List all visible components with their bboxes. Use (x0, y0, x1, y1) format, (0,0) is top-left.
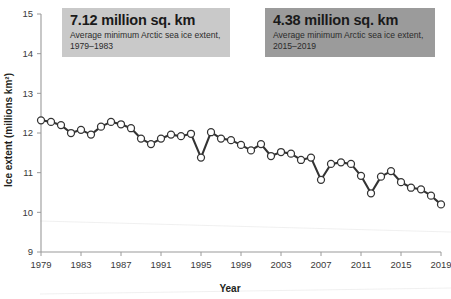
data-point-marker (348, 160, 355, 167)
x-tick-label: 2015 (390, 259, 411, 270)
x-tick-label: 1999 (230, 259, 251, 270)
data-point-marker (208, 129, 215, 136)
data-point-marker (198, 154, 205, 161)
y-tick-label: 14 (22, 48, 33, 59)
data-point-marker (338, 159, 345, 166)
data-point-marker (258, 141, 265, 148)
data-point-marker (428, 192, 435, 199)
data-point-marker (398, 179, 405, 186)
x-tick-label: 2003 (270, 259, 291, 270)
data-point-marker (138, 135, 145, 142)
data-point-marker (248, 147, 255, 154)
data-line (41, 120, 441, 204)
data-point-marker (378, 173, 385, 180)
annotation-callout-second-period: 4.38 million sq. km Average minimum Arct… (265, 8, 435, 57)
data-point-marker (438, 201, 445, 208)
data-point-marker (78, 126, 85, 133)
y-tick-label: 10 (22, 207, 33, 218)
y-tick-label: 11 (23, 167, 33, 178)
data-point-marker (158, 135, 165, 142)
data-point-marker (188, 130, 195, 137)
x-tick-label: 2011 (351, 259, 371, 270)
data-point-marker (238, 141, 245, 148)
callout-value-first: 7.12 million sq. km (70, 13, 222, 28)
y-axis-title: Ice extent (millions km²) (3, 73, 14, 187)
data-point-marker (58, 122, 65, 129)
annotation-callout-first-period: 7.12 million sq. km Average minimum Arct… (62, 8, 230, 57)
data-point-marker (38, 117, 45, 124)
data-point-marker (388, 168, 395, 175)
data-point-marker (218, 135, 225, 142)
y-tick-label: 15 (22, 8, 33, 19)
data-point-marker (108, 118, 115, 125)
callout-description-first: Average minimum Arctic sea ice extent, 1… (70, 30, 222, 51)
data-point-marker (308, 154, 315, 161)
data-point-marker (128, 125, 135, 132)
data-point-marker (268, 153, 275, 160)
data-point-marker (408, 184, 415, 191)
data-point-marker (318, 176, 325, 183)
data-point-marker (48, 118, 55, 125)
data-point-marker (98, 123, 105, 130)
x-tick-label: 2007 (310, 259, 331, 270)
scan-artifact-2 (40, 288, 451, 294)
y-tick-label: 13 (22, 88, 33, 99)
scan-artifact (40, 221, 451, 232)
data-point-marker (328, 160, 335, 167)
x-tick-label: 1991 (150, 259, 171, 270)
data-point-marker (288, 150, 295, 157)
callout-description-second: Average minimum Arctic sea ice extent, 2… (273, 30, 427, 51)
data-point-marker (418, 186, 425, 193)
x-tick-label: 1983 (70, 259, 91, 270)
data-point-marker (228, 137, 235, 144)
y-tick-label: 12 (22, 127, 33, 138)
data-point-marker (298, 156, 305, 163)
data-series-layer (38, 117, 445, 208)
data-point-marker (278, 149, 285, 156)
data-point-marker (148, 141, 155, 148)
data-point-marker (368, 190, 375, 197)
chart-figure: 9101112131415197919831987199119951999200… (0, 0, 451, 299)
data-point-marker (68, 130, 75, 137)
data-point-marker (88, 131, 95, 138)
data-point-marker (178, 133, 185, 140)
callout-value-second: 4.38 million sq. km (273, 13, 427, 28)
x-tick-label: 1987 (110, 259, 131, 270)
data-point-marker (168, 131, 175, 138)
data-point-marker (358, 172, 365, 179)
x-tick-label: 1995 (190, 259, 211, 270)
y-tick-label: 9 (28, 246, 33, 257)
x-tick-label: 1979 (30, 259, 51, 270)
data-point-marker (118, 121, 125, 128)
x-tick-label: 2019 (430, 259, 451, 270)
x-axis-title: Year (219, 283, 240, 294)
